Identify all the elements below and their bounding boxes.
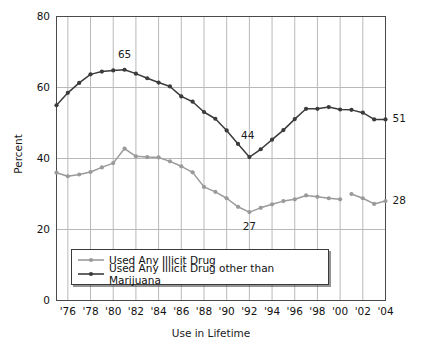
point-annotation-27: 27 [233, 220, 265, 232]
x-tick-label-04: '04 [370, 305, 402, 317]
legend-swatch-light [78, 255, 104, 265]
series-0 [54, 146, 387, 214]
point-annotation-44: 44 [241, 129, 265, 141]
y-tick-label-60: 60 [10, 81, 50, 93]
point-annotation-65: 65 [109, 48, 141, 60]
y-tick-label-0: 0 [10, 294, 50, 306]
legend-label-1: Used Any Illicit Drug other than Marijua… [109, 262, 322, 286]
y-tick-label-80: 80 [10, 10, 50, 22]
y-tick-label-20: 20 [10, 223, 50, 235]
series-1 [54, 68, 387, 160]
chart-legend: Used Any Illicit Drug Used Any Illicit D… [71, 249, 329, 285]
legend-swatch-dark [78, 269, 104, 279]
data-series-layer [54, 68, 387, 215]
y-axis-title: Percent [12, 119, 24, 189]
end-label-51: 51 [393, 112, 406, 124]
end-label-28: 28 [393, 194, 406, 206]
legend-item-used-any-illicit-drug-other-than-marijuana[interactable]: Used Any Illicit Drug other than Marijua… [78, 267, 322, 281]
chart-container: 020406080 '76'78'80'82'84'86'88'90'92'94… [0, 0, 422, 345]
x-axis-title: Use in Lifetime [0, 327, 422, 339]
chart-plot-svg [0, 0, 422, 345]
